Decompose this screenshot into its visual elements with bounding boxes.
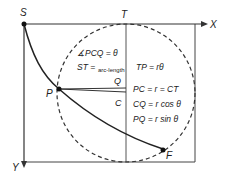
equation-pc: PC = r = CT bbox=[133, 84, 179, 94]
equation-st-prefix: ST = bbox=[77, 62, 95, 72]
label-x: X bbox=[209, 19, 217, 30]
label-s: S bbox=[20, 7, 27, 18]
equation-st-suffix: TP = rθ bbox=[136, 62, 164, 72]
equation-angle: ∡PCQ = θ bbox=[77, 48, 118, 58]
label-y: Y bbox=[12, 162, 20, 173]
equation-cq: CQ = r cos θ bbox=[133, 99, 181, 109]
equation-st-sub: arc-length bbox=[98, 67, 125, 73]
label-p: P bbox=[46, 88, 53, 99]
segment-pc bbox=[59, 89, 126, 92]
label-f: F bbox=[166, 150, 173, 161]
equation-pq: PQ = r sin θ bbox=[133, 114, 178, 124]
label-q: Q bbox=[114, 76, 121, 86]
label-c: C bbox=[115, 98, 122, 108]
x-axis-arrow-icon bbox=[201, 21, 208, 27]
label-t: T bbox=[121, 9, 128, 20]
cycloid-diagram: S T X Y P Q C F ∡PCQ = θ ST = arc-length… bbox=[0, 0, 229, 179]
point-f bbox=[161, 148, 166, 153]
point-s bbox=[22, 22, 27, 27]
y-axis-arrow-icon bbox=[21, 161, 27, 168]
segment-pq bbox=[59, 88, 126, 89]
point-p bbox=[57, 87, 62, 92]
